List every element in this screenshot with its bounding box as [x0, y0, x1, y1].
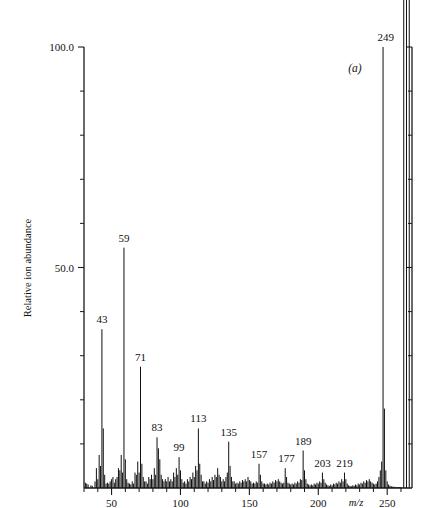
y-tick-label: 100.0	[49, 41, 74, 53]
peak-label: 43	[96, 313, 108, 325]
peak-label: 83	[152, 421, 164, 433]
y-axis-title: Relative ion abundance	[22, 218, 33, 317]
x-tick-label: 50	[106, 497, 118, 508]
peak-label: 249	[378, 31, 395, 43]
y-tick-group	[78, 47, 412, 444]
peak-label: 71	[135, 351, 146, 363]
peak-label: 157	[251, 448, 268, 460]
peak-label: 59	[118, 232, 130, 244]
mass-spectrum-plot: 4359718399113135157177189203219249 50.01…	[0, 0, 441, 508]
peak-label: 135	[220, 426, 237, 438]
peak-label: 99	[174, 441, 186, 453]
x-tick-label: 100	[172, 497, 189, 508]
peak-label: 219	[336, 457, 353, 469]
mass-spectrum-figure: 4359718399113135157177189203219249 50.01…	[0, 0, 441, 508]
peak-label: 189	[295, 435, 312, 447]
x-tick-group	[84, 488, 401, 495]
axes-group	[84, 47, 412, 488]
panel-label: (a)	[348, 62, 362, 75]
peak-label: 113	[190, 412, 207, 424]
peak-label: 203	[314, 457, 331, 469]
peak-label-group: 4359718399113135157177189203219249	[96, 31, 394, 469]
x-tick-label: 200	[310, 497, 327, 508]
peak-label: 177	[278, 452, 295, 464]
tick-label-group: 50.0100.050100150200250	[49, 41, 396, 508]
y-tick-label: 50.0	[55, 262, 75, 274]
x-tick-label: 250	[379, 497, 396, 508]
x-axis-title: m/z	[349, 497, 364, 508]
x-tick-label: 150	[241, 497, 258, 508]
